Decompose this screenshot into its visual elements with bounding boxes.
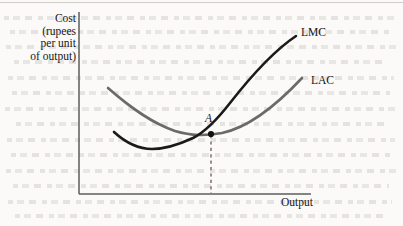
figure-root: Cost (rupees per unit of output) Output …: [0, 0, 403, 226]
y-axis-title: Cost (rupees per unit of output): [8, 12, 76, 62]
point-a-label: A: [205, 112, 212, 125]
x-axis-title: Output: [281, 196, 313, 209]
lmc-curve-label: LMC: [301, 26, 326, 39]
lmc-curve: [114, 36, 296, 149]
lac-curve: [108, 78, 302, 135]
lac-curve-label: LAC: [311, 74, 334, 87]
point-a-marker: [208, 131, 214, 137]
